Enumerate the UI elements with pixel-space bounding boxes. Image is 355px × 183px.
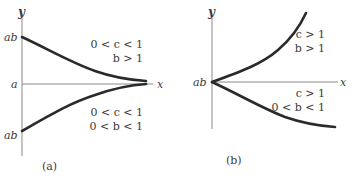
panel-b-caption: (b) — [226, 154, 242, 167]
panel-a-upper-condition-b: b > 1 — [113, 52, 143, 65]
panel-a-upper-condition-c: 0 < c < 1 — [90, 38, 143, 51]
panel-b-x-label: x — [340, 76, 347, 89]
panel-a-caption: (a) — [42, 160, 57, 173]
panel-a: y x ab a ab 0 < c < 1 b > 1 0 < c < 1 0 … — [4, 5, 164, 173]
panel-a-y-label: y — [17, 5, 26, 19]
panel-b-upper-condition-b: b > 1 — [295, 42, 325, 55]
panel-a-asymptote-label: a — [11, 78, 18, 91]
panel-a-x-label: x — [157, 78, 164, 91]
panel-b: y x ab c > 1 b > 1 c > 1 0 < b < 1 (b) — [193, 5, 347, 167]
panel-b-y-label: y — [207, 5, 216, 19]
panel-a-upper-tick-label: ab — [4, 31, 18, 44]
panel-b-lower-condition-b: 0 < b < 1 — [272, 101, 325, 114]
gompertz-curves-figure: y x ab a ab 0 < c < 1 b > 1 0 < c < 1 0 … — [0, 0, 355, 183]
panel-a-lower-condition-b: 0 < b < 1 — [90, 120, 143, 133]
panel-b-lower-condition-c: c > 1 — [296, 87, 325, 100]
panel-b-upper-condition-c: c > 1 — [296, 28, 325, 41]
panel-a-lower-condition-c: 0 < c < 1 — [90, 106, 143, 119]
panel-a-lower-tick-label: ab — [4, 129, 18, 142]
panel-b-upper-curve — [212, 13, 306, 82]
panel-b-origin-tick-label: ab — [193, 76, 207, 89]
